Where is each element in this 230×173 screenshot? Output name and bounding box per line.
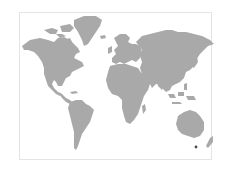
continent-europe [100,34,142,64]
continent-greenland [74,16,102,46]
continent-south-america [68,100,94,150]
continent-australia [176,110,213,148]
world-map[interactable] [0,0,230,173]
location-marker-tasmania[interactable] [195,146,198,149]
continent-north-america [22,24,84,104]
continent-asia [136,30,214,104]
